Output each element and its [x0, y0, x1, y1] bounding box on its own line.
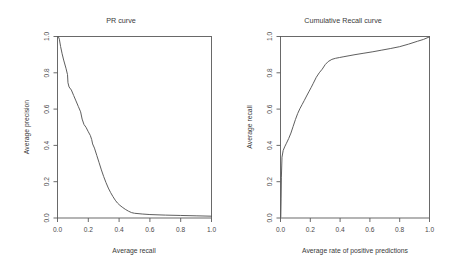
y-tick-label: 0.2: [266, 177, 273, 186]
x-tick-label: 0.6: [365, 226, 374, 233]
y-tick-label: 0.6: [266, 104, 273, 113]
pr-curve-line: [58, 37, 211, 217]
y-tick-label: 1.0: [266, 32, 273, 41]
y-tick-label: 0.4: [43, 140, 50, 149]
y-axis-label: Average recall: [246, 105, 254, 149]
x-axis-ticks: 0.00.20.40.60.81.0: [276, 218, 434, 233]
y-tick-label: 0.6: [43, 104, 50, 113]
x-axis-ticks: 0.00.20.40.60.81.0: [53, 218, 216, 233]
figure-container: PR curve 0.00.20.40.60.81.0 0.00.20.40.6…: [0, 0, 450, 271]
panel-title: Cumulative Recall curve: [304, 16, 382, 25]
y-tick-label: 0.8: [266, 68, 273, 77]
cumulative-recall-svg: Cumulative Recall curve 0.00.20.40.60.81…: [225, 0, 450, 271]
y-tick-label: 0.8: [43, 68, 50, 77]
y-tick-label: 0.4: [266, 140, 273, 149]
panel-title: PR curve: [106, 16, 136, 25]
x-tick-label: 0.8: [176, 226, 185, 233]
x-tick-label: 1.0: [425, 226, 434, 233]
y-tick-label: 0.0: [43, 213, 50, 222]
panel-cumulative-recall-curve: Cumulative Recall curve 0.00.20.40.60.81…: [225, 0, 450, 271]
x-tick-label: 0.4: [336, 226, 345, 233]
x-tick-label: 0.2: [306, 226, 315, 233]
panel-pr-curve: PR curve 0.00.20.40.60.81.0 0.00.20.40.6…: [0, 0, 225, 271]
y-tick-label: 1.0: [43, 32, 50, 41]
x-axis-label: Average rate of positive predictions: [302, 247, 409, 255]
x-tick-label: 0.0: [276, 226, 285, 233]
y-tick-label: 0.2: [43, 177, 50, 186]
x-tick-label: 0.0: [53, 226, 62, 233]
x-axis-label: Average recall: [112, 247, 156, 255]
y-axis-label: Average precision: [23, 100, 31, 155]
y-axis-ticks: 0.00.20.40.60.81.0: [43, 32, 58, 223]
plot-box: [58, 37, 212, 219]
x-tick-label: 0.2: [84, 226, 93, 233]
x-tick-label: 0.6: [145, 226, 154, 233]
pr-curve-svg: PR curve 0.00.20.40.60.81.0 0.00.20.40.6…: [0, 0, 225, 271]
x-tick-label: 1.0: [207, 226, 216, 233]
plot-box: [281, 37, 430, 219]
y-tick-label: 0.0: [266, 213, 273, 222]
cumulative-recall-line: [281, 37, 430, 217]
x-tick-label: 0.8: [395, 226, 404, 233]
y-axis-ticks: 0.00.20.40.60.81.0: [266, 32, 281, 223]
x-tick-label: 0.4: [115, 226, 124, 233]
